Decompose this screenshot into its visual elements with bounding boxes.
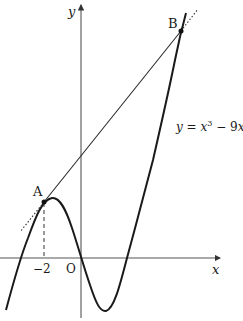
function-label: y = x3 − 9x	[175, 119, 243, 134]
origin-label: O	[66, 262, 76, 276]
y-axis-label: y	[67, 4, 76, 19]
x-axis-label: x	[212, 262, 220, 277]
point-a-label: A	[32, 184, 43, 199]
point-a-marker	[42, 200, 47, 205]
cubic-tangent-diagram: y x O −2 A B y = x3 − 9x	[0, 0, 243, 321]
point-b-marker	[179, 29, 184, 34]
point-b-label: B	[168, 16, 178, 31]
tick-label-minus-two: −2	[33, 262, 51, 276]
line-ab	[44, 31, 181, 202]
